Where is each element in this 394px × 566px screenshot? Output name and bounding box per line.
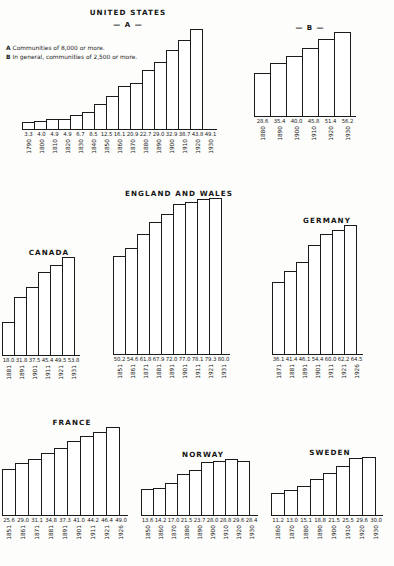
year-label-cell: 1901 (178, 364, 191, 390)
value-label: 17.0 (167, 517, 179, 523)
year-label: 1911 (90, 525, 96, 540)
chart-germany: 36.141.446.154.460.062.264.5187118811891… (272, 225, 382, 390)
year-label-cell: 1920 (322, 126, 339, 152)
year-label: 1880 (303, 525, 309, 540)
panel-canada: CANADA 18.031.837.545.449.553.8188118911… (2, 248, 96, 391)
value-label: 34.8 (44, 517, 57, 523)
year-label-cell: 1900 (165, 139, 178, 165)
value-label: 4.9 (61, 131, 73, 137)
value-label: 22.7 (139, 131, 151, 137)
panel-united-states-b: — B — 28.635.440.045.851.456.21880189019… (254, 24, 366, 152)
value-label: 31.1 (30, 517, 43, 523)
year-label-cell: 1900 (206, 525, 219, 551)
value-label: 29.0 (16, 517, 29, 523)
year-label: 1880 (260, 126, 266, 141)
value-labels: 3.34.04.94.96.78.512.516.120.922.729.032… (22, 131, 217, 137)
value-label: 30.0 (369, 517, 382, 523)
year-label-cell: 1870 (126, 139, 139, 165)
panel-france: FRANCE 25.629.031.134.837.341.044.246.44… (2, 418, 142, 551)
value-label: 41.0 (72, 517, 85, 523)
value-label: 40.0 (288, 118, 304, 124)
bar (271, 493, 285, 515)
year-label-cell: 1861 (16, 525, 30, 551)
value-label: 13.0 (285, 517, 298, 523)
year-label-cell: 1926 (350, 364, 363, 390)
bar (362, 457, 376, 515)
year-label-cell: 1880 (180, 525, 193, 551)
year-label: 1890 (277, 126, 283, 141)
bar (106, 427, 120, 515)
year-label: 1891 (302, 364, 308, 379)
bar (270, 63, 287, 116)
year-label: 1920 (236, 525, 242, 540)
chart-canada: 18.031.837.545.449.553.81881189119011911… (2, 257, 96, 391)
year-label: 1930 (249, 525, 255, 540)
year-label: 1930 (345, 126, 351, 141)
year-label-cell: 1921 (204, 364, 217, 390)
year-label: 1931 (71, 365, 77, 380)
value-label: 45.8 (305, 118, 321, 124)
value-label: 25.5 (341, 517, 354, 523)
year-label-cell: 1931 (217, 364, 230, 390)
bar (62, 257, 75, 355)
bar (80, 436, 94, 515)
year-label: 1901 (32, 365, 38, 380)
year-label: 1881 (48, 525, 54, 540)
year-label: 1860 (117, 139, 123, 154)
value-labels: 28.635.440.045.851.456.2 (254, 118, 356, 124)
year-label: 1901 (76, 525, 82, 540)
year-label: 1860 (158, 525, 164, 540)
bar (310, 479, 324, 515)
value-label: 29.6 (232, 517, 244, 523)
year-label: 1890 (317, 525, 323, 540)
year-label: 1901 (315, 364, 321, 379)
value-label: 28.0 (206, 517, 218, 523)
value-label: 51.4 (322, 118, 338, 124)
year-label-cell: 1860 (154, 525, 167, 551)
value-label: 29.6 (355, 517, 368, 523)
plot-area (254, 32, 356, 117)
year-label-cell: 1901 (28, 365, 41, 391)
year-labels: 188118911901191119211931 (2, 365, 80, 391)
plot-area (22, 29, 217, 130)
bar (237, 461, 250, 515)
year-label-cell: 1881 (2, 365, 15, 391)
chart-france: 25.629.031.134.837.341.044.246.449.01851… (2, 427, 142, 551)
year-label: 1911 (195, 364, 201, 379)
year-label-cell: 1900 (288, 126, 305, 152)
year-label: 1910 (182, 139, 188, 154)
year-label: 1891 (19, 365, 25, 380)
year-label: 1930 (208, 139, 214, 154)
year-label-cell: 1880 (299, 525, 313, 551)
year-label: 1891 (62, 525, 68, 540)
panel-title-france: FRANCE (2, 418, 142, 427)
year-label: 1890 (156, 139, 162, 154)
value-label: 23.7 (193, 517, 205, 523)
value-label: 4.9 (48, 131, 60, 137)
year-label: 1910 (311, 126, 317, 141)
year-label-cell: 1921 (100, 525, 114, 551)
year-label: 1910 (223, 525, 229, 540)
value-labels: 25.629.031.134.837.341.044.246.449.0 (2, 517, 128, 523)
value-label: 21.5 (327, 517, 340, 523)
year-label: 1921 (208, 364, 214, 379)
panel-title-norway: NORWAY (141, 450, 265, 459)
year-label-cell: 1810 (48, 139, 61, 165)
year-label-cell: 1881 (44, 525, 58, 551)
chart-united-states-a: 3.34.04.94.96.78.512.516.120.922.729.032… (22, 29, 234, 165)
value-label: 12.5 (100, 131, 112, 137)
year-label: 1901 (182, 364, 188, 379)
year-label-cell: 1891 (15, 365, 28, 391)
value-label: 36.1 (272, 356, 284, 362)
value-label: 43.8 (191, 131, 203, 137)
year-label: 1900 (169, 139, 175, 154)
panel-title-sweden: SWEDEN (271, 448, 389, 457)
year-label: 1920 (328, 126, 334, 141)
value-labels: 13.614.217.021.523.728.028.829.628.4 (141, 517, 258, 523)
year-label: 1920 (195, 139, 201, 154)
bar (323, 473, 337, 515)
year-label-cell: 1911 (191, 364, 204, 390)
year-label-cell: 1920 (191, 139, 204, 165)
year-label: 1881 (156, 364, 162, 379)
value-label: 80.0 (217, 356, 229, 362)
